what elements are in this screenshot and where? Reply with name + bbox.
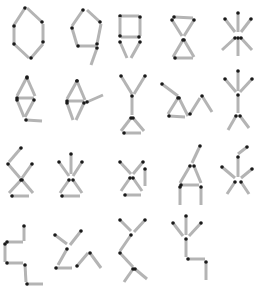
match-head-icon (80, 160, 84, 164)
matchstick (90, 253, 101, 268)
match-head-icon (233, 180, 237, 184)
figure-diamond-with-arm (65, 79, 103, 120)
figure-branch-zigzag (53, 229, 101, 270)
match-head-icon (250, 77, 254, 81)
figure-star (222, 11, 253, 56)
matchstick (168, 98, 178, 114)
matchstick (14, 8, 25, 25)
match-head-icon (79, 229, 83, 233)
matchstick (173, 40, 183, 57)
matchstick (77, 253, 88, 266)
match-head-icon (25, 76, 29, 80)
match-head-icon (184, 237, 188, 241)
match-head-icon (141, 160, 145, 164)
match-head-icon (98, 20, 102, 24)
match-head-icon (234, 114, 238, 118)
matchstick (222, 38, 235, 50)
match-head-icon (192, 164, 196, 168)
match-head-icon (143, 167, 147, 171)
matchstick (133, 178, 142, 191)
match-head-icon (70, 26, 74, 30)
figure-triangle-zigzag (160, 82, 212, 118)
match-head-icon (143, 74, 147, 78)
match-head-icon (220, 165, 224, 169)
match-head-icon (118, 251, 122, 255)
matchstick (9, 148, 21, 162)
match-head-icon (170, 18, 174, 22)
matchstick (241, 38, 252, 50)
matchstick (17, 100, 24, 117)
matchstick (25, 100, 34, 117)
matchstick (67, 81, 77, 99)
matchstick (121, 178, 130, 191)
match-head-icon (239, 180, 243, 184)
matchstick (172, 20, 182, 36)
match-head-icon (76, 44, 80, 48)
match-head-icon (65, 101, 69, 105)
match-head-icon (182, 38, 186, 42)
matchstick (169, 116, 185, 117)
matchstick (134, 220, 145, 232)
match-head-icon (75, 264, 79, 268)
match-head-icon (223, 17, 227, 21)
matchstick (174, 17, 193, 18)
match-head-icon (236, 69, 240, 73)
match-head-icon (198, 144, 202, 148)
matchstick (184, 20, 194, 36)
matchstick (240, 116, 249, 128)
matchstick (173, 223, 183, 236)
match-head-icon (131, 116, 135, 120)
match-head-icon (171, 221, 175, 225)
match-head-icon (160, 82, 164, 86)
matchstick (135, 269, 147, 279)
matchstick (77, 81, 85, 100)
match-head-icon (118, 218, 122, 222)
match-head-icon (236, 155, 240, 159)
match-head-icon (130, 94, 134, 98)
matchstick (9, 180, 21, 193)
match-head-icon (5, 261, 9, 265)
matchstick (58, 249, 67, 265)
figure-star-with-base (57, 152, 84, 198)
match-head-icon (131, 176, 135, 180)
match-head-icon (85, 100, 89, 104)
match-head-icon (88, 251, 92, 255)
matchstick-canvas (0, 0, 263, 293)
match-head-icon (137, 35, 141, 39)
matchstick (22, 180, 33, 193)
matchstick (120, 162, 131, 174)
match-head-icon (199, 185, 203, 189)
match-head-icon (129, 233, 133, 237)
match-head-icon (67, 178, 71, 182)
matchstick (241, 169, 252, 178)
matchstick (202, 96, 212, 112)
match-head-icon (53, 233, 57, 237)
matchstick (190, 98, 200, 114)
match-head-icon (245, 145, 249, 149)
matchstick (60, 180, 69, 193)
matchstick (72, 10, 83, 26)
match-head-icon (249, 17, 253, 21)
match-head-icon (24, 118, 28, 122)
matchstick (76, 103, 84, 120)
match-head-icon (29, 56, 33, 60)
match-head-icon (178, 185, 182, 189)
matchstick (97, 24, 101, 44)
figure-nine-shape (70, 8, 102, 65)
match-head-icon (138, 15, 142, 19)
matchstick (241, 182, 249, 194)
matchstick (227, 182, 235, 194)
match-head-icon (204, 260, 208, 264)
matchstick (241, 19, 251, 32)
match-head-icon (177, 96, 181, 100)
match-head-icon (12, 42, 16, 46)
matchstick (17, 77, 27, 96)
figure-a-frame (178, 144, 203, 205)
matchstick (27, 78, 35, 96)
matchstick (179, 98, 188, 116)
matchstick (87, 95, 103, 102)
match-head-icon (236, 11, 240, 15)
match-head-icon (15, 98, 19, 102)
matchstick (162, 84, 178, 96)
matchstick (26, 120, 42, 121)
